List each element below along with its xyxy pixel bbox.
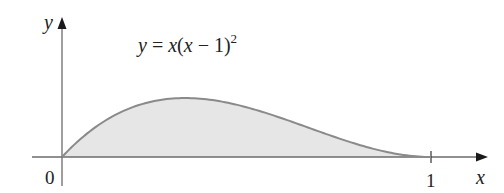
function-area-diagram: y x 0 1 y = x(x − 1)2 [0, 0, 504, 193]
origin-label: 0 [45, 167, 55, 188]
y-axis-arrow-icon [58, 17, 67, 29]
y-axis-label: y [42, 11, 53, 34]
tick-label-1: 1 [426, 170, 436, 191]
function-equation-label: y = x(x − 1)2 [136, 31, 237, 57]
x-axis-label: x [475, 166, 485, 188]
x-axis-arrow-icon [476, 153, 488, 162]
